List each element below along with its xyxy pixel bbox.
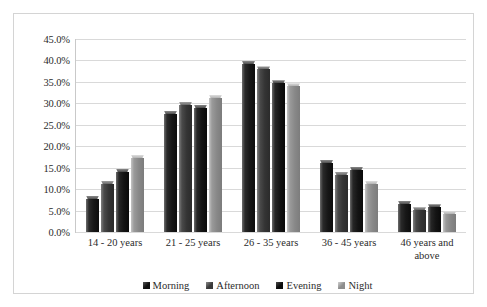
bar-body	[398, 204, 411, 232]
y-axis-tick-label: 40.0%	[43, 55, 70, 66]
bar-body	[86, 199, 99, 232]
bar-body	[350, 170, 363, 232]
bar-group	[86, 39, 144, 232]
bar-afternoon	[179, 102, 192, 232]
y-axis-tick-label: 15.0%	[43, 162, 70, 173]
legend-swatch-icon	[276, 282, 283, 289]
bar-evening	[194, 105, 207, 232]
x-axis-tick-labels: 14 - 20 years21 - 25 years26 - 35 years3…	[76, 236, 466, 262]
bar-body	[194, 108, 207, 232]
y-axis-tick-label: 35.0%	[43, 76, 70, 87]
bar-morning	[242, 61, 255, 232]
gridline	[76, 232, 466, 233]
bar-chart-figure: 45.0%40.0%35.0%30.0%25.0%20.0%15.0%10.0%…	[0, 0, 487, 307]
legend-item-afternoon[interactable]: Afternoon	[206, 280, 259, 291]
legend-label: Morning	[153, 280, 190, 291]
bar-body	[413, 210, 426, 232]
bar-group	[320, 39, 378, 232]
x-axis-tick-label: 46 years and above	[388, 236, 466, 262]
bar-group	[398, 39, 456, 232]
legend-label: Night	[348, 280, 372, 291]
bar-body	[164, 114, 177, 232]
y-axis-tick-label: 0.0%	[49, 227, 70, 238]
legend-label: Evening	[286, 280, 321, 291]
bar-body	[428, 207, 441, 232]
bar-group	[164, 39, 222, 232]
x-axis-tick-label: 14 - 20 years	[76, 236, 154, 262]
y-axis-tick-label: 25.0%	[43, 119, 70, 130]
bar-morning	[164, 111, 177, 232]
bar-night	[131, 155, 144, 232]
bar-evening	[428, 204, 441, 232]
bar-body	[257, 69, 270, 232]
bar-afternoon	[335, 172, 348, 232]
bar-morning	[398, 201, 411, 232]
bar-night	[443, 211, 456, 232]
bar-body	[131, 158, 144, 232]
bar-body	[242, 64, 255, 232]
bar-night	[287, 83, 300, 232]
bar-evening	[272, 80, 285, 232]
legend-swatch-icon	[143, 282, 150, 289]
legend-item-night[interactable]: Night	[338, 280, 372, 291]
y-axis-tick-label: 30.0%	[43, 98, 70, 109]
bar-body	[101, 184, 114, 232]
bar-body	[320, 163, 333, 232]
bar-body	[287, 86, 300, 232]
bar-body	[272, 83, 285, 232]
bar-body	[443, 214, 456, 232]
bar-body	[116, 172, 129, 232]
y-axis-tick-label: 5.0%	[49, 205, 70, 216]
chart-frame: 45.0%40.0%35.0%30.0%25.0%20.0%15.0%10.0%…	[13, 13, 474, 294]
bar-night	[209, 95, 222, 232]
bar-morning	[86, 196, 99, 232]
bar-body	[209, 98, 222, 232]
bar-body	[179, 105, 192, 232]
bar-body	[335, 175, 348, 232]
legend-item-morning[interactable]: Morning	[143, 280, 190, 291]
legend-swatch-icon	[338, 282, 345, 289]
bar-group	[242, 39, 300, 232]
x-axis-tick-label: 26 - 35 years	[232, 236, 310, 262]
bar-afternoon	[101, 181, 114, 232]
y-axis-tick-labels: 45.0%40.0%35.0%30.0%25.0%20.0%15.0%10.0%…	[14, 39, 70, 232]
legend-swatch-icon	[206, 282, 213, 289]
x-axis-tick-label: 36 - 45 years	[310, 236, 388, 262]
y-axis-tick-label: 20.0%	[43, 141, 70, 152]
y-axis-tick-label: 45.0%	[43, 34, 70, 45]
bar-afternoon	[257, 66, 270, 232]
chart-legend: MorningAfternoonEveningNight	[27, 280, 487, 291]
bar-afternoon	[413, 207, 426, 232]
bar-evening	[350, 167, 363, 232]
bars-layer	[76, 39, 466, 232]
legend-item-evening[interactable]: Evening	[276, 280, 321, 291]
bar-body	[365, 184, 378, 232]
bar-evening	[116, 169, 129, 232]
x-axis-tick-label: 21 - 25 years	[154, 236, 232, 262]
bar-morning	[320, 160, 333, 232]
legend-label: Afternoon	[216, 280, 259, 291]
y-axis-tick-label: 10.0%	[43, 184, 70, 195]
bar-night	[365, 181, 378, 232]
